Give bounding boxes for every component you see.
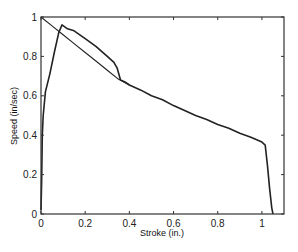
y-tick-label: 1	[31, 12, 37, 23]
x-tick-label: 1	[259, 218, 265, 229]
y-tick-label: 0.2	[23, 169, 37, 180]
speed-vs-stroke-chart: 00.20.40.60.8100.20.40.60.81 Stroke (in.…	[0, 0, 298, 252]
series-layer	[41, 17, 273, 214]
y-tick-label: 0	[31, 209, 37, 220]
y-tick-label: 0.4	[23, 130, 37, 141]
series-measured-line	[41, 25, 273, 214]
axis-ticks: 00.20.40.60.8100.20.40.60.81	[23, 12, 284, 230]
y-axis-label: Speed (in/sec)	[9, 87, 19, 145]
x-tick-label: 0.4	[122, 218, 136, 229]
x-axis-label: Stroke (in.)	[140, 228, 184, 238]
y-tick-label: 0.6	[23, 90, 37, 101]
y-tick-label: 0.8	[23, 51, 37, 62]
x-tick-label: 0	[38, 218, 44, 229]
x-tick-label: 0.2	[78, 218, 92, 229]
x-tick-label: 0.8	[211, 218, 225, 229]
